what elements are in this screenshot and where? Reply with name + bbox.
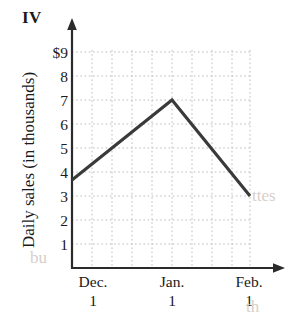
figure-container: IV Daily sales (in thousands) $9 8 7 6 5… — [0, 0, 291, 318]
scan-artifact: bu — [30, 248, 47, 268]
scan-artifact: ttes — [252, 186, 276, 206]
x-tick-label-dec: Dec. 1 — [58, 272, 128, 311]
x-tick-day: 1 — [137, 291, 207, 310]
x-tick-label-jan: Jan. 1 — [137, 272, 207, 311]
chart-plot-area — [0, 0, 291, 318]
x-tick-month: Dec. — [58, 272, 128, 291]
x-tick-month: Feb. — [214, 272, 284, 291]
scan-artifact: th — [246, 297, 259, 317]
x-tick-month: Jan. — [137, 272, 207, 291]
y-axis-arrow-icon — [67, 18, 77, 30]
x-tick-day: 1 — [58, 291, 128, 310]
axes — [67, 18, 285, 273]
